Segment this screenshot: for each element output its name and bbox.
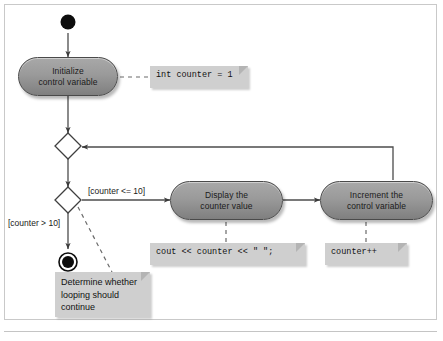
action-initialize-line1: Initialize <box>52 66 84 77</box>
action-display-line2: counter value <box>200 201 252 212</box>
guard-counter-lte-10: [counter <= 10] <box>88 186 145 196</box>
action-increment-line2: control variable <box>347 201 406 212</box>
action-increment-line1: Increment the <box>350 190 403 201</box>
action-increment-control-variable[interactable]: Increment the control variable <box>320 181 433 220</box>
action-display-line1: Display the <box>205 190 248 201</box>
note-decision-description: Determine whether looping should continu… <box>55 272 150 317</box>
action-initialize-line2: control variable <box>38 77 97 88</box>
guard-counter-gt-10: [counter > 10] <box>8 218 60 228</box>
activity-diagram-figure: Initialize control variable Display the … <box>0 0 443 341</box>
figure-bottom-rule <box>4 331 437 332</box>
note-display-code: cout << counter << " "; <box>150 243 305 265</box>
action-display-counter-value[interactable]: Display the counter value <box>170 181 283 220</box>
note-increment-code: counter++ <box>325 243 407 265</box>
note-initialize-code: int counter = 1 <box>150 66 248 88</box>
action-initialize-control-variable[interactable]: Initialize control variable <box>18 57 118 96</box>
